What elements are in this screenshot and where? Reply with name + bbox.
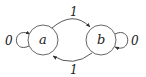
state-b-label: b (97, 32, 105, 47)
state-a-label: a (39, 32, 47, 47)
transition-b-to-b-label: 0 (131, 34, 139, 48)
transition-b-to-a (53, 53, 92, 61)
transition-a-to-a-label: 0 (5, 34, 13, 48)
state-a: a (28, 25, 58, 55)
transition-a-to-b (52, 19, 90, 28)
transition-b-to-a-label: 1 (70, 63, 78, 77)
state-diagram: 1 1 0 0 a b (0, 0, 146, 77)
transition-a-to-b-label: 1 (70, 5, 78, 19)
state-b: b (86, 25, 116, 55)
transition-b-to-b (115, 33, 128, 49)
